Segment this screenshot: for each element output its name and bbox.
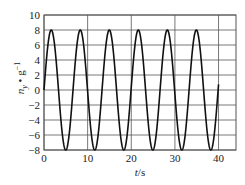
line-chart: −8−6−4−20246810 010203040 t/s ny • g−1: [0, 0, 245, 185]
x-axis-ticks: 010203040: [41, 152, 224, 164]
y-tick-label: 4: [35, 54, 41, 66]
x-tick-label: 40: [213, 152, 225, 164]
y-axis-label-rest: • g: [14, 70, 26, 85]
y-tick-label: 2: [35, 69, 41, 81]
y-tick-label: −6: [28, 129, 40, 141]
x-tick-label: 30: [169, 152, 181, 164]
y-tick-label: −2: [28, 99, 40, 111]
y-tick-label: 10: [29, 9, 41, 21]
y-tick-label: 0: [35, 84, 41, 96]
x-axis-label-unit: /s: [138, 166, 145, 178]
y-tick-label: 8: [35, 24, 41, 36]
y-tick-label: 6: [35, 39, 41, 51]
y-axis-ticks: −8−6−4−20246810: [28, 9, 40, 156]
y-tick-label: −8: [28, 144, 40, 156]
y-axis-label-sup: −1: [13, 62, 22, 71]
x-tick-label: 10: [82, 152, 94, 164]
x-axis-label: t/s: [135, 166, 145, 178]
x-tick-label: 0: [41, 152, 47, 164]
y-axis-label: ny • g−1: [13, 62, 29, 94]
y-tick-label: −4: [28, 114, 40, 126]
x-tick-label: 20: [126, 152, 138, 164]
